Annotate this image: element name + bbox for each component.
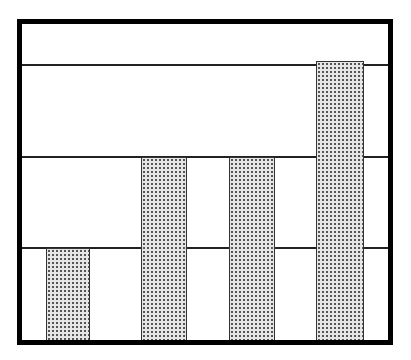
bar-3 (229, 157, 275, 340)
plot-area (22, 24, 388, 340)
bar-4 (316, 61, 364, 340)
bar-1 (46, 248, 90, 340)
chart-frame (17, 19, 393, 345)
bar-2 (141, 157, 187, 340)
